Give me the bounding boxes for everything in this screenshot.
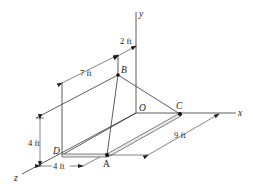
origin-label: O [139, 103, 146, 113]
guide-top-left [36, 75, 118, 118]
point-a-label: A [103, 159, 110, 169]
dim-4ft-height-label: 4 ft [28, 138, 40, 148]
point-c-label: C [176, 101, 183, 111]
line-d-o [62, 113, 136, 155]
cable-bc [118, 75, 180, 114]
cable-ba [107, 75, 118, 155]
statics-diagram: y x z O B C D A 2 ft 7 ft 4 ft 4 ft 9 ft [0, 0, 253, 188]
dim-7ft-label: 7 ft [80, 68, 92, 78]
dim-2ft-line [118, 46, 136, 56]
dim-4ft-bottom-label: 4 ft [53, 161, 65, 171]
point-d-label: D [52, 146, 60, 156]
y-axis-label: y [138, 9, 144, 19]
point-b-label: B [121, 65, 127, 75]
point-c [178, 112, 182, 116]
bar-ac [107, 113, 181, 157]
ext-4ft-bottom [83, 157, 100, 166]
z-axis-label: z [13, 173, 18, 183]
point-a [105, 153, 109, 157]
dim-9ft-label: 9 ft [174, 130, 186, 140]
dim-2ft-label: 2 ft [120, 36, 132, 46]
structure [36, 55, 180, 155]
bar-da [62, 154, 107, 157]
point-b [116, 73, 120, 77]
x-axis-label: x [237, 108, 243, 118]
dimension-lines [36, 46, 219, 166]
